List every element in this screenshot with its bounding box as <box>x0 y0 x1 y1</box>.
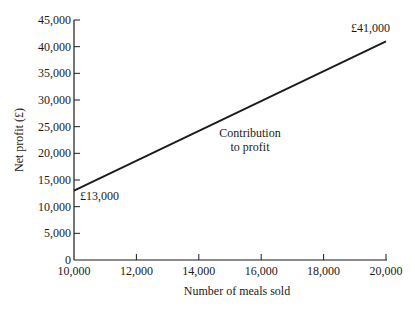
x-tick-label: 14,000 <box>182 264 215 278</box>
x-tick-label: 18,000 <box>307 264 340 278</box>
x-tick-label: 16,000 <box>245 264 278 278</box>
y-tick-label: 25,000 <box>38 120 71 134</box>
y-tick-label: 40,000 <box>38 40 71 54</box>
x-tick-label: 20,000 <box>370 264 403 278</box>
annotation-contribution-line2: to profit <box>231 140 271 154</box>
chart-canvas: 05,00010,00015,00020,00025,00030,00035,0… <box>0 0 415 312</box>
y-tick-label: 15,000 <box>38 173 71 187</box>
y-tick-label: 5,000 <box>44 226 71 240</box>
y-axis-label: Net profit (£) <box>12 108 26 172</box>
y-tick-label: 30,000 <box>38 93 71 107</box>
x-axis-ticks: 10,00012,00014,00016,00018,00020,000 <box>58 254 403 278</box>
y-tick-label: 10,000 <box>38 200 71 214</box>
y-tick-label: 20,000 <box>38 146 71 160</box>
x-tick-label: 12,000 <box>120 264 153 278</box>
y-tick-label: 35,000 <box>38 66 71 80</box>
annotation-contribution-line1: Contribution <box>219 126 280 140</box>
y-tick-label: 45,000 <box>38 13 71 27</box>
annotation-start-value: £13,000 <box>80 189 119 203</box>
x-tick-label: 10,000 <box>58 264 91 278</box>
annotation-end-value: £41,000 <box>351 21 390 35</box>
x-axis-label: Number of meals sold <box>184 284 290 298</box>
net-profit-line <box>74 41 386 190</box>
